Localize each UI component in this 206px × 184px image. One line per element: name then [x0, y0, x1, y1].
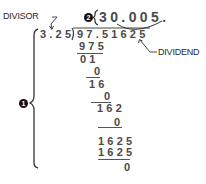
step-975: 975 [79, 41, 107, 52]
step-1625: 1625 [98, 147, 135, 158]
divisor-label: DIVISOR [3, 11, 39, 21]
step1-brace [30, 29, 38, 168]
subtraction-rule [98, 159, 130, 160]
step-16: 16 [89, 79, 108, 90]
divisor-value: 3.25 [40, 29, 74, 40]
step-162: 162 [97, 103, 125, 114]
step2-marker-icon: 2 [84, 13, 93, 22]
remainder-0: 0 [124, 162, 133, 173]
subtraction-rule [98, 127, 122, 128]
step-0: 0 [104, 91, 113, 102]
step-01: 01 [80, 54, 99, 65]
dividend-leader-line [140, 40, 157, 52]
step1-marker-icon: 1 [19, 99, 28, 108]
quotient: 30.005. [99, 10, 170, 24]
dividend-value: 97.51625 [77, 29, 148, 40]
step-0: 0 [94, 66, 103, 77]
dividend-label: DIVIDEND [158, 47, 199, 57]
step2-brace [93, 10, 98, 25]
divisor-leader-line [51, 17, 57, 24]
